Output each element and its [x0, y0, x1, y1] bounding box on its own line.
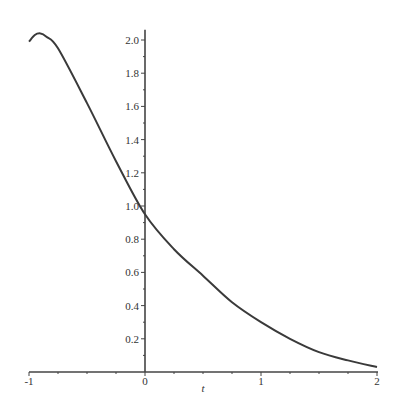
y-tick-label: 1.8: [125, 67, 139, 79]
y-tick-label: 0.6: [125, 266, 139, 278]
data-curve: [29, 33, 377, 367]
x-tick-label: ‑1: [24, 375, 33, 387]
y-tick-label: 2.0: [125, 34, 139, 46]
x-tick-label: 2: [374, 375, 380, 387]
x-axis-label: t: [201, 382, 205, 394]
y-tick-label: 1.6: [125, 100, 139, 112]
x-tick-label: 1: [258, 375, 264, 387]
y-tick-label: 0.2: [125, 333, 139, 345]
y-tick-label: 1.2: [125, 167, 139, 179]
x-tick-label: 0: [142, 375, 148, 387]
y-tick-label: 1.4: [125, 134, 139, 146]
y-tick-label: 0.8: [125, 233, 139, 245]
y-axis: 0.20.40.60.81.01.21.41.61.82.0: [125, 30, 145, 372]
line-chart: ‑1012 0.20.40.60.81.01.21.41.61.82.0 t: [0, 0, 402, 407]
y-tick-label: 0.4: [125, 300, 139, 312]
